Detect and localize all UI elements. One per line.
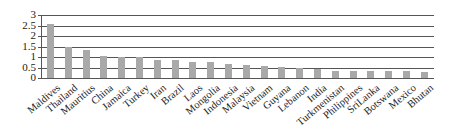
gridline [41,15,434,16]
y-tick-label: 1.5 [6,41,36,52]
bar-malaysia [243,65,250,78]
bar-india [314,69,321,78]
bar-turkmenistan [332,71,339,78]
gridline [41,78,434,79]
bar-chart: 00.511.522.53 MaldivesThailandMauritiusC… [0,0,458,138]
gridline [41,26,434,27]
y-tick-mark [38,78,42,79]
bar-vietnam [261,66,268,78]
bar-lebanon [296,68,303,78]
y-tick-label: 2.5 [6,20,36,31]
bar-bhutan [421,72,428,78]
bar-botswana [385,71,392,78]
y-tick-label: 3 [6,9,36,20]
bar-iran [154,60,161,78]
bar-laos [189,62,196,78]
bar-turkey [136,57,143,78]
bar-mauritius [83,50,90,78]
y-axis-line [41,15,42,78]
bar-guyana [278,67,285,78]
bar-jamaica [118,57,125,78]
bar-mexico [403,71,410,78]
bar-indonesia [225,64,232,78]
y-tick-label: 0 [6,72,36,83]
bar-srilanka [367,71,374,78]
y-tick-label: 1 [6,51,36,62]
bar-brazil [172,60,179,78]
y-tick-label: 0.5 [6,62,36,73]
bar-mongolia [207,62,214,78]
bar-thailand [65,47,72,79]
y-tick-label: 2 [6,30,36,41]
bar-philippines [350,71,357,78]
bar-maldives [47,24,54,78]
gridline [41,47,434,48]
bar-china [100,56,107,78]
gridline [41,36,434,37]
